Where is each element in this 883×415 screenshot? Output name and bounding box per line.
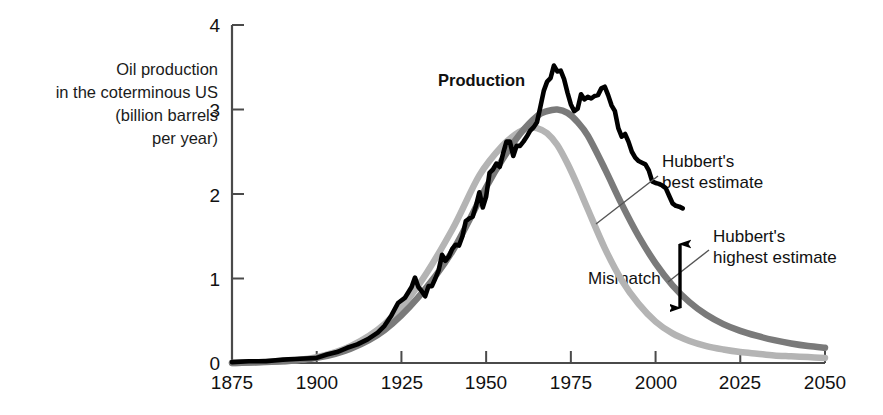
axis-ticks — [232, 25, 825, 363]
chart-plot-area — [0, 0, 883, 415]
axis-lines — [232, 25, 825, 363]
oil-production-chart: Oil production in the coterminous US (bi… — [0, 0, 883, 415]
leader-line-highest-estimate — [668, 250, 709, 282]
series-hubberts-highest-estimate — [232, 109, 825, 363]
